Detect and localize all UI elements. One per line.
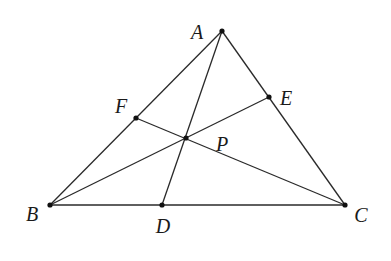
point-d [159,202,164,207]
point-a [219,28,224,33]
label-b: B [26,204,38,224]
label-p: P [216,134,228,154]
label-e: E [280,88,292,108]
point-b [47,202,52,207]
label-a: A [191,22,203,42]
point-c [342,202,347,207]
cevian-be [50,97,269,205]
point-p [183,135,188,140]
cevian-ad [162,31,222,205]
point-f [133,115,138,120]
label-d: D [156,216,170,236]
label-c: C [354,205,367,225]
label-f: F [115,96,127,116]
point-e [266,94,271,99]
